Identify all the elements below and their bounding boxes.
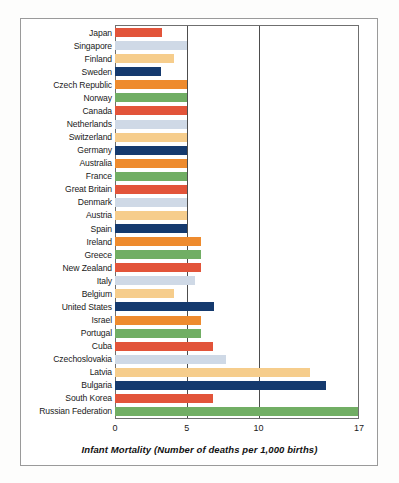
x-tick-label: 0 bbox=[112, 424, 117, 433]
bar-czech-republic bbox=[115, 80, 187, 89]
bar-germany bbox=[115, 146, 187, 155]
category-label: South Korea bbox=[24, 394, 112, 403]
category-label: Russian Federation bbox=[24, 407, 112, 416]
bar-switzerland bbox=[115, 133, 187, 142]
category-label: Australia bbox=[24, 159, 112, 168]
category-label: Ireland bbox=[24, 238, 112, 247]
category-label: Canada bbox=[24, 107, 112, 116]
category-label: Italy bbox=[24, 277, 112, 286]
bar-spain bbox=[115, 224, 187, 233]
bar-australia bbox=[115, 159, 187, 168]
bar-finland bbox=[115, 54, 174, 63]
bar-series bbox=[115, 26, 359, 418]
x-tick-label: 10 bbox=[254, 424, 264, 433]
category-label: Czech Republic bbox=[24, 81, 112, 90]
bar-greece bbox=[115, 250, 201, 259]
chart-plot-wrapper: JapanSingaporeFinlandSwedenCzech Republi… bbox=[0, 0, 399, 483]
bar-united-states bbox=[115, 302, 214, 311]
category-label: Netherlands bbox=[24, 120, 112, 129]
category-label: Japan bbox=[24, 29, 112, 38]
category-label: Sweden bbox=[24, 68, 112, 77]
bar-latvia bbox=[115, 368, 310, 377]
x-tick-label: 5 bbox=[184, 424, 189, 433]
category-label: New Zealand bbox=[24, 264, 112, 273]
category-label: Czechoslovakia bbox=[24, 355, 112, 364]
bar-czechoslovakia bbox=[115, 355, 226, 364]
bar-cuba bbox=[115, 342, 213, 351]
category-label: Portugal bbox=[24, 329, 112, 338]
bar-canada bbox=[115, 106, 187, 115]
bar-norway bbox=[115, 93, 187, 102]
bar-great-britain bbox=[115, 185, 187, 194]
bar-france bbox=[115, 172, 187, 181]
bar-denmark bbox=[115, 198, 187, 207]
bar-new-zealand bbox=[115, 263, 201, 272]
x-axis-tick-labels: 051017 bbox=[0, 424, 399, 438]
category-label: Norway bbox=[24, 94, 112, 103]
category-label: Cuba bbox=[24, 342, 112, 351]
category-label: Belgium bbox=[24, 290, 112, 299]
category-label: Bulgaria bbox=[24, 381, 112, 390]
bar-belgium bbox=[115, 289, 174, 298]
category-label: Switzerland bbox=[24, 133, 112, 142]
category-label: Denmark bbox=[24, 198, 112, 207]
category-label: Austria bbox=[24, 211, 112, 220]
bar-sweden bbox=[115, 67, 161, 76]
category-label: Israel bbox=[24, 316, 112, 325]
bar-israel bbox=[115, 316, 201, 325]
bar-italy bbox=[115, 276, 195, 285]
bar-south-korea bbox=[115, 394, 213, 403]
category-label: United States bbox=[24, 303, 112, 312]
category-label: Spain bbox=[24, 225, 112, 234]
bar-bulgaria bbox=[115, 381, 326, 390]
bar-austria bbox=[115, 211, 187, 220]
bar-russian-federation bbox=[115, 407, 358, 416]
chart-figure: JapanSingaporeFinlandSwedenCzech Republi… bbox=[0, 0, 399, 483]
category-label: Singapore bbox=[24, 42, 112, 51]
category-axis-labels: JapanSingaporeFinlandSwedenCzech Republi… bbox=[24, 26, 112, 418]
bar-singapore bbox=[115, 41, 187, 50]
bar-portugal bbox=[115, 329, 201, 338]
x-tick-label: 17 bbox=[354, 424, 364, 433]
bar-ireland bbox=[115, 237, 201, 246]
category-label: Greece bbox=[24, 251, 112, 260]
bar-netherlands bbox=[115, 120, 187, 129]
category-label: Great Britain bbox=[24, 185, 112, 194]
bar-japan bbox=[115, 28, 162, 37]
x-axis-title: Infant Mortality (Number of deaths per 1… bbox=[0, 444, 399, 455]
category-label: Latvia bbox=[24, 368, 112, 377]
category-label: Germany bbox=[24, 146, 112, 155]
category-label: France bbox=[24, 172, 112, 181]
category-label: Finland bbox=[24, 55, 112, 64]
